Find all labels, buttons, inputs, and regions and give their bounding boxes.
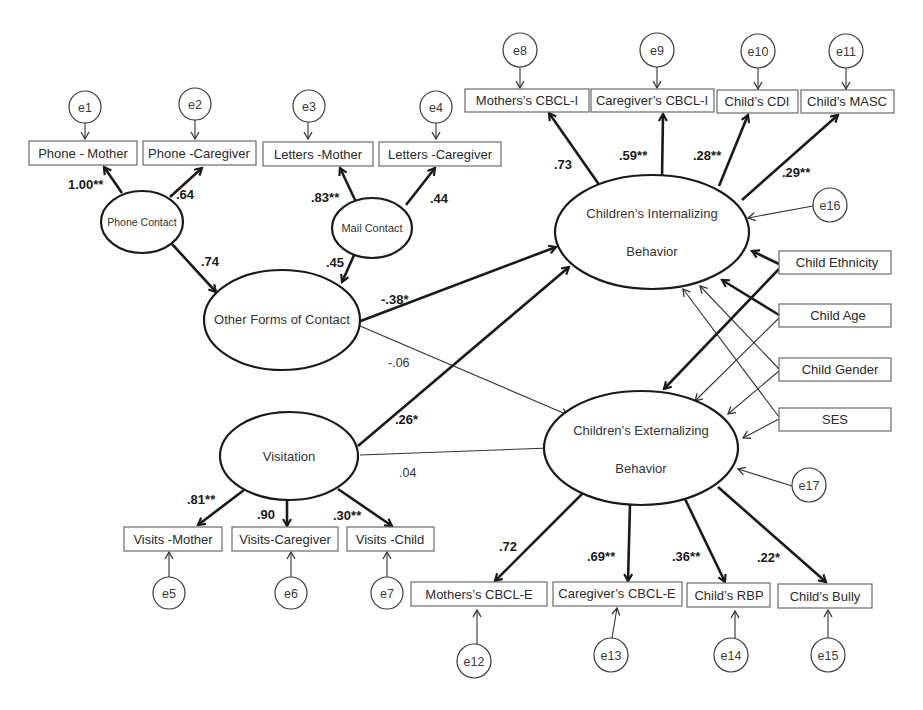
path-other-to-internalizing [358,247,556,322]
svg-text:Child’s CDI: Child’s CDI [725,94,790,109]
indicator-caregivers-cbcl-e: Caregiver’s CBCL-E [553,582,682,606]
svg-text:Behavior: Behavior [626,244,678,259]
path-ses-to-externalizing [743,419,779,438]
coef-mothers-cbcl-i: .73 [554,157,572,172]
error-e4: e4 [420,91,452,123]
coef-phone-mother: 1.00** [68,177,104,192]
svg-text:e2: e2 [188,98,202,112]
svg-text:Children’s Internalizing: Children’s Internalizing [586,206,717,221]
indicator-childs-masc: Child’s MASC [801,90,894,113]
coef-phone-to-other: .74 [201,254,220,269]
svg-text:Visits-Caregiver: Visits-Caregiver [239,532,331,547]
svg-text:Mothers’s CBCL-E: Mothers’s CBCL-E [425,587,533,602]
svg-text:e10: e10 [748,45,769,59]
error-e14: e14 [714,638,748,672]
svg-text:Mothers’s CBCL-I: Mothers’s CBCL-I [476,93,578,108]
indicator-visits-mother: Visits -Mother [124,527,222,551]
indicator-mothers-cbcl-e: Mothers’s CBCL-E [411,582,547,606]
svg-text:Other Forms of Contact: Other Forms of Contact [214,312,350,327]
svg-text:e12: e12 [464,655,485,669]
svg-text:Phone Contact: Phone Contact [107,216,177,228]
svg-text:e6: e6 [284,587,298,601]
error-e17: e17 [792,468,826,502]
path-age-to-externalizing [695,318,779,401]
svg-text:Child’s Bully: Child’s Bully [790,589,861,604]
svg-text:Child’s MASC: Child’s MASC [807,94,887,109]
path-ethnicity-to-internalizing [752,251,779,264]
svg-text:Child Ethnicity: Child Ethnicity [796,255,879,270]
latent-mail-contact: Mail Contact [332,198,412,258]
error-e3: e3 [293,90,325,122]
svg-text:Child’s RBP: Child’s RBP [694,588,763,603]
coef-visits-child: .30** [333,508,362,523]
error-e8: e8 [503,33,537,67]
indicator-childs-bully: Child’s Bully [778,584,872,608]
svg-text:e9: e9 [650,44,664,58]
error-e5: e5 [153,577,185,609]
coef-childs-bully: .22* [757,550,781,565]
svg-text:SES: SES [822,412,848,427]
svg-text:Visitation: Visitation [263,449,316,464]
error-e2: e2 [179,88,211,120]
svg-text:Caregiver’s CBCL-I: Caregiver’s CBCL-I [596,93,708,108]
error-e7: e7 [371,577,403,609]
error-e11: e11 [829,34,863,68]
latent-childrens-externalizing-behavior: Children’s Externalizing Behavior [544,391,738,505]
coef-visits-mother: .81** [187,492,216,507]
indicator-childs-rbp: Child’s RBP [687,583,770,607]
coef-letters-mother: .83** [311,190,340,205]
svg-text:Mail Contact: Mail Contact [341,222,402,234]
path-childs-rbp [685,499,725,582]
coef-other-to-externalizing: -.06 [388,356,410,370]
svg-text:e7: e7 [380,587,394,601]
error-e15: e15 [811,638,845,672]
coef-visits-caregiver: .90 [257,507,275,522]
svg-text:Child Age: Child Age [810,308,866,323]
svg-text:e11: e11 [836,45,856,59]
path-caregivers-cbcl-e [628,504,630,581]
path-letters-mother [340,168,356,202]
coef-visitation-to-internalizing: .26* [395,412,419,427]
error-e16: e16 [813,188,847,222]
latent-childrens-internalizing-behavior: Children’s Internalizing Behavior [555,175,749,289]
coef-childs-rbp: .36** [672,549,701,564]
covariate-child-gender: Child Gender [779,358,891,381]
svg-text:e5: e5 [162,587,176,601]
path-e17 [738,469,792,486]
svg-text:e14: e14 [721,649,742,663]
path-childs-cdi [719,115,748,186]
indicator-visits-child: Visits -Child [347,527,434,551]
coef-mail-to-other: .45 [326,255,344,270]
covariate-child-ethnicity: Child Ethnicity [779,251,891,274]
svg-text:e16: e16 [820,199,841,213]
path-caregivers-cbcl-i [662,114,663,179]
svg-text:e13: e13 [601,649,622,663]
error-e13: e13 [594,638,628,672]
error-e6: e6 [275,577,307,609]
coef-other-to-internalizing: -.38* [381,292,409,307]
svg-text:e1: e1 [78,101,92,115]
indicator-phone-mother: Phone - Mother [29,141,137,165]
path-mothers-cbcl-i [549,113,600,186]
coef-letters-caregiver: .44 [430,191,449,206]
svg-text:e8: e8 [513,44,527,58]
indicator-caregivers-cbcl-i: Caregiver’s CBCL-I [591,89,714,112]
svg-text:Phone - Mother: Phone - Mother [38,146,128,161]
indicator-visits-caregiver: Visits-Caregiver [232,527,338,551]
latent-phone-contact: Phone Contact [101,191,183,253]
coef-caregivers-cbcl-i: .59** [619,148,648,163]
error-e9: e9 [640,33,674,67]
error-e12: e12 [457,644,491,678]
path-phone-mother [104,167,122,193]
indicator-phone-caregiver: Phone -Caregiver [143,141,256,165]
svg-text:Phone -Caregiver: Phone -Caregiver [148,146,251,161]
coef-childs-masc: .29** [782,165,811,180]
sem-diagram: e1 e2 e3 e4 e5 e6 e7 e8 e9 e10 e11 e12 e… [0,0,923,710]
svg-text:Letters -Mother: Letters -Mother [274,147,363,162]
svg-text:e15: e15 [818,649,839,663]
coef-visitation-to-externalizing: .04 [399,466,416,480]
latent-visitation: Visitation [220,412,358,500]
svg-text:e17: e17 [799,479,820,493]
indicator-letters-caregiver: Letters -Caregiver [379,142,501,166]
path-mothers-cbcl-e [495,493,583,581]
